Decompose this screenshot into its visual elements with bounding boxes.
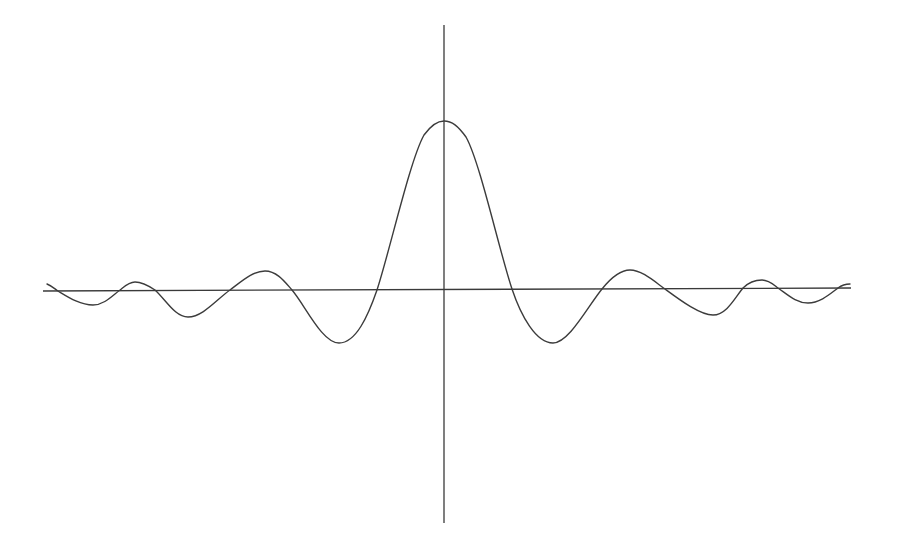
function-curve	[47, 121, 850, 343]
sinc-function-chart	[0, 0, 897, 546]
x-axis-line	[43, 288, 851, 291]
